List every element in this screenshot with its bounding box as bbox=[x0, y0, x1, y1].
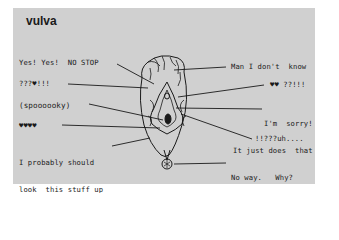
label-uh: !!???uh.... bbox=[255, 134, 304, 143]
label-look-stuff-up-line2: look this stuff up bbox=[19, 185, 103, 193]
label-spooky: (spoooooky) bbox=[19, 101, 70, 110]
label-look-stuff-up: I probably should look this stuff up bbox=[19, 140, 103, 193]
label-look-stuff-up-line1: I probably should bbox=[19, 158, 103, 167]
label-yes-yes-no-stop: Yes! Yes! NO STOP bbox=[19, 58, 99, 67]
label-im-sorry-line2: It just does that bbox=[228, 146, 313, 155]
label-im-sorry-line1: I'm sorry! bbox=[228, 119, 313, 128]
label-four-hearts: ♥♥♥♥ bbox=[19, 121, 37, 130]
label-question-heart: ???♥!!! bbox=[19, 79, 50, 88]
label-no-way: No way. Why? Do you want to? bbox=[231, 155, 297, 193]
label-no-way-line1: No way. Why? bbox=[231, 173, 297, 182]
label-man-dont-know: Man I don't know bbox=[231, 62, 306, 71]
label-two-hearts: ♥♥ ??!!! bbox=[270, 80, 305, 89]
